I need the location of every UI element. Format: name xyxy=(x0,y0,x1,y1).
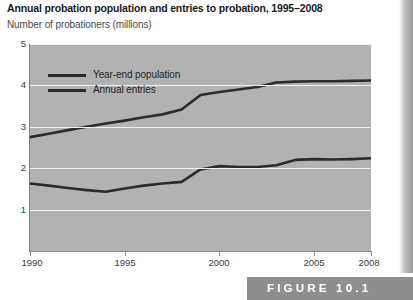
legend-label: Annual entries xyxy=(93,83,156,96)
x-tick-1990 xyxy=(30,251,31,256)
x-tick-label-2008: 2008 xyxy=(358,258,379,268)
y-tick-label-3: 3 xyxy=(2,122,26,131)
x-tick-2005 xyxy=(314,251,315,256)
y-axis-line xyxy=(29,44,30,252)
x-tick-label-2005: 2005 xyxy=(303,258,324,268)
chart-subtitle: Number of probationers (millions) xyxy=(7,18,377,31)
legend-swatch-icon xyxy=(48,89,86,92)
gridline-1 xyxy=(30,210,371,211)
plot-container: Year-end population Annual entries 5 4 3… xyxy=(0,36,400,266)
page-edge-strip xyxy=(399,0,413,273)
x-tick-label-2000: 2000 xyxy=(208,258,229,268)
figure-page: Annual probation population and entries … xyxy=(0,0,413,300)
figure-caption-bar: FIGURE 10.1 xyxy=(247,277,413,300)
x-tick-label-1995: 1995 xyxy=(114,258,135,268)
x-tick-2008 xyxy=(371,251,372,256)
line-annual-entries xyxy=(30,158,371,192)
legend-item-year-end-population: Year-end population xyxy=(48,68,228,83)
legend-swatch-icon xyxy=(48,74,86,77)
y-tick-label-5: 5 xyxy=(2,39,26,48)
y-axis-labels: 5 4 3 2 1 xyxy=(0,44,26,251)
x-tick-1995 xyxy=(125,251,126,256)
y-tick-label-1: 1 xyxy=(2,205,26,214)
figure-number-label: FIGURE 10.1 xyxy=(267,282,371,294)
x-tick-label-1990: 1990 xyxy=(21,258,42,268)
y-tick-label-4: 4 xyxy=(2,80,26,89)
chart-legend: Year-end population Annual entries xyxy=(48,68,228,98)
legend-label: Year-end population xyxy=(93,68,180,81)
plot-area: Year-end population Annual entries xyxy=(30,44,371,251)
gridline-3 xyxy=(30,127,371,128)
gridline-2 xyxy=(30,168,371,169)
chart-title: Annual probation population and entries … xyxy=(7,2,377,15)
gridline-5 xyxy=(30,44,371,45)
y-tick-label-2: 2 xyxy=(2,163,26,172)
x-tick-2000 xyxy=(219,251,220,256)
x-axis-line xyxy=(30,251,372,252)
legend-item-annual-entries: Annual entries xyxy=(48,83,228,98)
